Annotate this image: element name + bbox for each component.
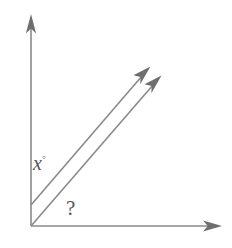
upper-parallel-ray-arrowhead [133, 67, 150, 85]
upper-parallel-ray [31, 67, 151, 205]
angle-diagram-figure: x◦ ? [0, 0, 232, 248]
lower-parallel-ray [31, 76, 162, 226]
angle-unknown-label: ? [66, 198, 75, 219]
lower-parallel-ray-arrowhead [145, 76, 162, 94]
lower-parallel-ray-line [31, 85, 153, 226]
upper-parallel-ray-line [31, 76, 142, 205]
degree-symbol-icon: ◦ [42, 150, 46, 164]
horizontal-ray [31, 221, 222, 232]
diagram-canvas [0, 0, 232, 248]
vertical-ray [26, 14, 36, 226]
angle-x-label: x◦ [33, 152, 46, 173]
angle-x-variable: x [33, 152, 42, 174]
